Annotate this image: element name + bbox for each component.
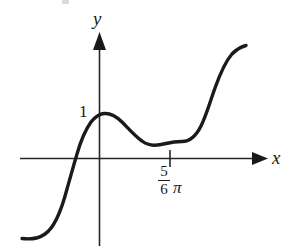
graph-canvas: y x 1 — [0, 0, 295, 246]
function-curve — [22, 46, 246, 239]
x-axis-label: x — [271, 147, 281, 168]
fraction-stack: 5 6 — [158, 164, 170, 197]
y-value-label-one: 1 — [79, 102, 88, 121]
math-graph-figure: y x 1 5 6 π — [0, 0, 295, 246]
fraction-numerator: 5 — [159, 164, 169, 179]
x-axis-arrow-icon — [252, 152, 268, 165]
scan-artifact-top — [62, 0, 69, 4]
y-axis-arrow-icon — [93, 32, 106, 50]
fraction-denominator: 6 — [159, 182, 169, 197]
y-axis-label: y — [91, 8, 102, 29]
pi-symbol: π — [173, 179, 182, 197]
x-tick-label-5pi-over-6: 5 6 π — [158, 164, 182, 197]
